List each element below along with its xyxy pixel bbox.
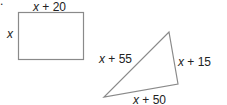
triangle-left-label: x + 55 [98, 52, 132, 66]
rectangle-top-label: x + 20 [32, 0, 66, 14]
rectangle-left-label: x [6, 27, 14, 41]
problem-marker: . [0, 0, 3, 8]
geometry-figure: . x + 20 x x + 55 x + 15 x + 50 [0, 0, 227, 105]
triangle-right-label: x + 15 [177, 55, 211, 69]
rectangle-shape [19, 13, 84, 60]
triangle-bottom-label: x + 50 [132, 93, 166, 105]
